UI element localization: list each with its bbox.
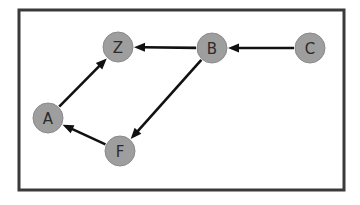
graph-node-f[interactable]: F (105, 136, 135, 166)
graph-node-z[interactable]: Z (103, 32, 133, 62)
graph-node-c[interactable]: C (295, 33, 325, 63)
graph-canvas: B → ZC → BA → ZB → FF → A ZBCAF (0, 0, 360, 205)
graph-node-a[interactable]: A (33, 103, 63, 133)
node-circle[interactable] (197, 33, 227, 63)
graph-figure: B → ZC → BA → ZB → FF → A ZBCAF (0, 0, 360, 205)
edge-line (143, 47, 196, 48)
plot-frame (19, 10, 344, 190)
node-circle[interactable] (33, 103, 63, 133)
graph-node-b[interactable]: B (197, 33, 227, 63)
node-circle[interactable] (103, 32, 133, 62)
node-circle[interactable] (105, 136, 135, 166)
node-circle[interactable] (295, 33, 325, 63)
